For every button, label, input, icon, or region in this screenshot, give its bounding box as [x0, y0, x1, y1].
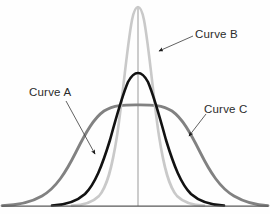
normal-distribution-figure: Curve A Curve B Curve C — [0, 0, 270, 214]
curve-c-label: Curve C — [204, 104, 248, 116]
curve-c-path — [2, 105, 268, 206]
curve-a-label: Curve A — [29, 87, 71, 99]
curve-c-leader-line — [189, 114, 206, 136]
curve-b-leader-line — [159, 36, 193, 51]
curve-b-label: Curve B — [195, 29, 238, 41]
